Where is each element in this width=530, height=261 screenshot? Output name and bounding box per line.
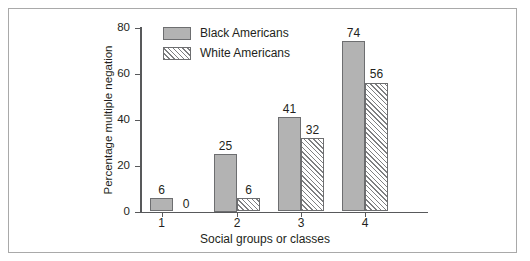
x-axis-line bbox=[140, 212, 428, 214]
bar-value-group2-black: 25 bbox=[206, 140, 246, 152]
x-axis-title: Social groups or classes bbox=[0, 232, 530, 246]
bar-group4-white bbox=[365, 83, 388, 212]
x-tick-label-1: 1 bbox=[142, 217, 182, 229]
legend-swatch-hatched-icon bbox=[163, 47, 191, 60]
y-tick-20 bbox=[135, 166, 141, 167]
y-tick-label-80: 80 bbox=[90, 22, 130, 34]
legend-label-black-americans: Black Americans bbox=[200, 27, 289, 39]
bar-value-group3-black: 41 bbox=[270, 103, 310, 115]
legend-item-black-americans: Black Americans bbox=[163, 23, 290, 43]
bar-value-group3-white: 32 bbox=[293, 124, 333, 136]
y-axis-title: Percentage multiple negation bbox=[102, 46, 114, 195]
y-tick-60 bbox=[135, 74, 141, 75]
bar-value-group1-black: 6 bbox=[142, 184, 182, 196]
y-tick-label-0: 0 bbox=[90, 206, 130, 218]
x-tick-label-2: 2 bbox=[217, 217, 257, 229]
legend-swatch-solid-icon bbox=[163, 27, 191, 40]
y-tick-40 bbox=[135, 120, 141, 121]
bar-group4-black bbox=[342, 41, 365, 211]
bar-value-group4-black: 74 bbox=[334, 27, 374, 39]
x-tick-label-3: 3 bbox=[281, 217, 321, 229]
chart-figure: 80 60 40 20 0 Percentage multiple negati… bbox=[0, 0, 530, 261]
chart-legend: Black Americans White Americans bbox=[163, 23, 290, 63]
bar-group2-black bbox=[214, 154, 237, 212]
bar-group3-white bbox=[301, 138, 324, 212]
x-tick-label-4: 4 bbox=[345, 217, 385, 229]
bar-value-group4-white: 56 bbox=[357, 68, 397, 80]
legend-item-white-americans: White Americans bbox=[163, 43, 290, 63]
legend-label-white-americans: White Americans bbox=[200, 47, 290, 59]
bar-value-group2-white: 6 bbox=[229, 184, 269, 196]
y-tick-80 bbox=[135, 28, 141, 29]
bar-group2-white bbox=[237, 198, 260, 212]
bar-value-group1-white: 0 bbox=[166, 198, 206, 210]
y-tick-0 bbox=[135, 212, 141, 213]
